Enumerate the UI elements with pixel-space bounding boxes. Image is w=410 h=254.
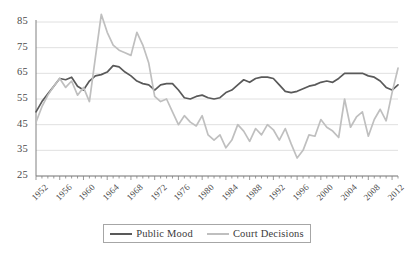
legend-swatch-public-mood (110, 233, 132, 235)
legend-item-public-mood[interactable]: Public Mood (110, 228, 193, 239)
y-axis-tick-label: 65 (6, 66, 28, 77)
data-series-group (36, 14, 398, 158)
legend-label-public-mood: Public Mood (136, 228, 193, 239)
y-axis-tick-label: 25 (6, 169, 28, 180)
y-axis-tick-label: 85 (6, 15, 28, 26)
x-axis-ticks (36, 176, 398, 180)
y-axis-tick-label: 35 (6, 143, 28, 154)
chart-container: 25354555657585 1952195619601964196819721… (0, 0, 410, 254)
y-axis-tick-label: 75 (6, 41, 28, 52)
legend-item-court-decisions[interactable]: Court Decisions (207, 228, 304, 239)
legend-swatch-court-decisions (207, 233, 229, 235)
y-axis-tick-label: 55 (6, 92, 28, 103)
y-axis-tick-label: 45 (6, 118, 28, 129)
chart-legend: Public Mood Court Decisions (103, 224, 311, 243)
legend-label-court-decisions: Court Decisions (233, 228, 304, 239)
chart-plot-area (0, 0, 410, 254)
series-line-court-decisions (36, 14, 398, 158)
